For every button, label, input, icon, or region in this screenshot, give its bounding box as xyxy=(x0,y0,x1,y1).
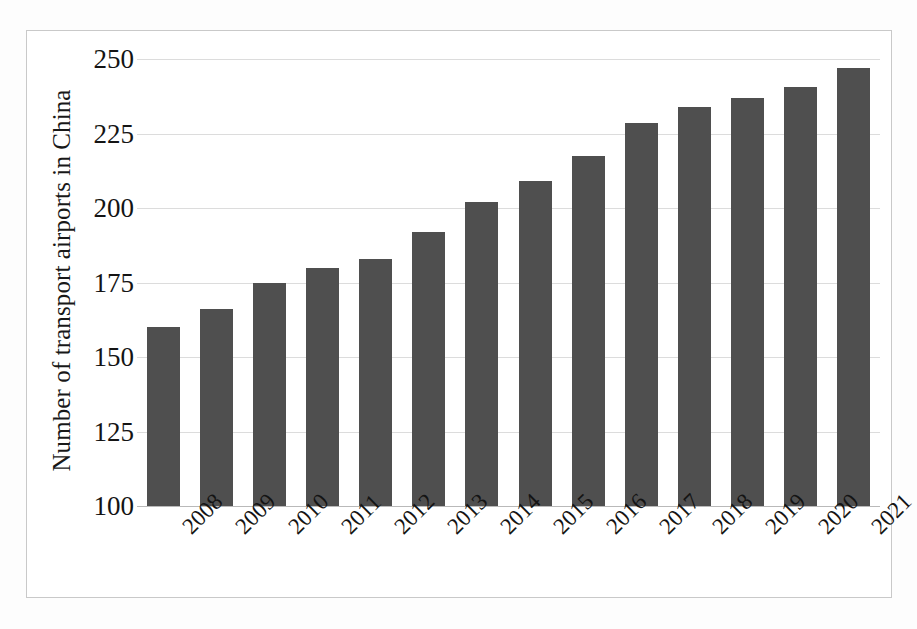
bar-2017[interactable] xyxy=(625,123,658,506)
y-tick-label-150: 150 xyxy=(94,344,135,371)
x-tick-label-2018: 2018 xyxy=(708,522,724,538)
gridline-175 xyxy=(137,283,880,284)
plot-area xyxy=(137,59,880,506)
bar-2018[interactable] xyxy=(678,107,711,506)
gridline-200 xyxy=(137,208,880,209)
y-tick-label-175: 175 xyxy=(94,269,135,296)
bar-2008[interactable] xyxy=(147,327,180,506)
y-tick-label-225: 225 xyxy=(94,120,135,147)
x-tick-label-2010: 2010 xyxy=(284,522,300,538)
bar-2020[interactable] xyxy=(784,87,817,506)
bar-2019[interactable] xyxy=(731,98,764,506)
bar-2016[interactable] xyxy=(572,156,605,506)
y-axis-tick-labels: 250225200175150125100 xyxy=(56,59,134,506)
gridline-225 xyxy=(137,134,880,135)
bar-chart-figure: Number of transport airports in China 25… xyxy=(0,0,917,629)
bar-2015[interactable] xyxy=(519,181,552,506)
x-tick-label-2016: 2016 xyxy=(602,522,618,538)
x-tick-label-2011: 2011 xyxy=(337,522,353,538)
bar-2009[interactable] xyxy=(200,309,233,506)
y-tick-label-200: 200 xyxy=(94,195,135,222)
gridline-250 xyxy=(137,59,880,60)
gridline-150 xyxy=(137,357,880,358)
bar-2013[interactable] xyxy=(412,232,445,506)
y-tick-label-100: 100 xyxy=(94,493,135,520)
bar-2014[interactable] xyxy=(465,202,498,506)
x-tick-label-2013: 2013 xyxy=(443,522,459,538)
y-tick-label-250: 250 xyxy=(94,46,135,73)
x-tick-label-2014: 2014 xyxy=(496,522,512,538)
x-tick-label-2017: 2017 xyxy=(655,522,671,538)
bar-2011[interactable] xyxy=(306,268,339,506)
bar-2012[interactable] xyxy=(359,259,392,506)
bar-2021[interactable] xyxy=(837,68,870,506)
x-axis-tick-labels: 2008200920102011201220132014201520162017… xyxy=(137,506,880,601)
x-tick-label-2020: 2020 xyxy=(814,522,830,538)
x-tick-label-2009: 2009 xyxy=(231,522,247,538)
y-tick-label-125: 125 xyxy=(94,418,135,445)
x-tick-label-2019: 2019 xyxy=(761,522,777,538)
x-tick-label-2012: 2012 xyxy=(390,522,406,538)
bar-2010[interactable] xyxy=(253,283,286,507)
x-tick-label-2021: 2021 xyxy=(867,522,883,538)
x-tick-label-2015: 2015 xyxy=(549,522,565,538)
gridline-125 xyxy=(137,432,880,433)
x-tick-label-2008: 2008 xyxy=(178,522,194,538)
